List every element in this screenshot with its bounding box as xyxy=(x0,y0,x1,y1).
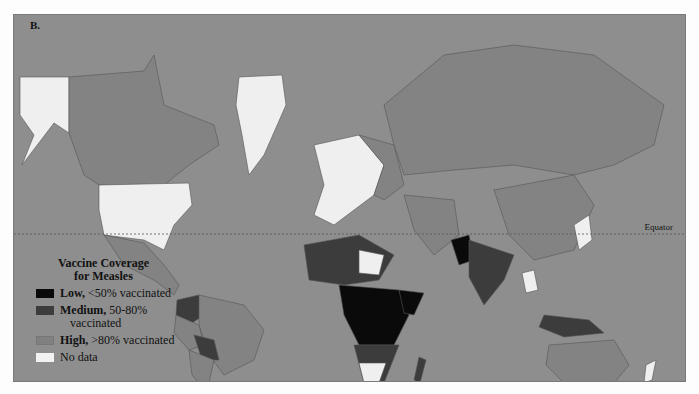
legend-label-low: Low, <50% vaccinated xyxy=(60,287,171,300)
legend-label-no-data: No data xyxy=(60,351,98,364)
legend-item-no-data: No data xyxy=(36,351,226,364)
region-greenland xyxy=(236,75,286,175)
swatch-no-data xyxy=(36,353,54,362)
region-canada xyxy=(69,55,219,185)
legend-title: Vaccine Coverage for Measles xyxy=(36,257,171,283)
swatch-medium xyxy=(36,306,54,315)
swatch-high xyxy=(36,336,54,345)
legend-item-high: High, >80% vaccinated xyxy=(36,334,226,347)
legend-label-high: High, >80% vaccinated xyxy=(60,334,174,347)
region-madagascar xyxy=(414,357,426,382)
region-australia xyxy=(546,340,629,382)
region-russia xyxy=(384,45,664,175)
region-thailand xyxy=(522,270,538,293)
region-alaska xyxy=(20,77,69,165)
region-middle-east xyxy=(404,195,459,255)
legend-label-medium: Medium, 50-80%vaccinated xyxy=(60,304,147,330)
region-central-africa xyxy=(339,285,409,345)
region-new-zealand xyxy=(644,360,656,382)
region-india xyxy=(469,240,514,305)
legend-item-medium: Medium, 50-80%vaccinated xyxy=(36,304,226,330)
legend-title-line2: for Measles xyxy=(36,270,171,283)
region-indonesia xyxy=(539,315,604,337)
swatch-low xyxy=(36,289,54,298)
equator-label: Equator xyxy=(645,222,674,232)
legend-item-low: Low, <50% vaccinated xyxy=(36,287,226,300)
legend: Vaccine Coverage for Measles Low, <50% v… xyxy=(36,257,226,364)
map-frame: B. xyxy=(13,14,686,382)
